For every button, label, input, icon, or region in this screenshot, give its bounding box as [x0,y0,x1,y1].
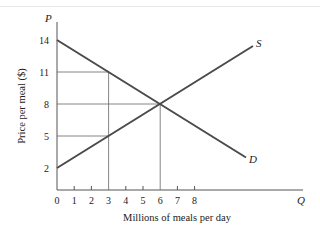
demand-label: D [248,153,257,165]
y-tick-5: 5 [44,131,49,142]
x-tick-labels: 0 1 2 3 4 5 6 7 8 [55,195,198,206]
y-tick-8: 8 [44,99,49,110]
supply-label: S [256,37,262,49]
y-axis-variable: P [44,12,52,24]
y-axis-title: Price per meal ($) [16,68,28,144]
x-tick-1: 1 [72,195,77,206]
x-tick-4: 4 [123,195,128,206]
supply-curve [57,46,253,168]
x-ticks [74,186,194,190]
y-tick-14: 14 [39,35,49,46]
y-tick-2: 2 [44,163,49,174]
guide-lines [57,72,160,190]
supply-demand-chart: S D P Q 14 11 8 5 2 0 1 2 3 4 5 6 7 8 Mi… [0,0,320,237]
demand-curve [57,40,246,158]
x-axis-variable: Q [297,194,305,206]
y-tick-labels: 14 11 8 5 2 [39,35,49,174]
y-tick-11: 11 [39,67,49,78]
x-tick-3: 3 [106,195,111,206]
x-tick-0: 0 [55,195,60,206]
x-tick-8: 8 [192,195,197,206]
x-axis-title: Millions of meals per day [123,212,232,223]
x-tick-7: 7 [175,195,180,206]
x-tick-6: 6 [158,195,163,206]
x-tick-2: 2 [89,195,94,206]
x-tick-5: 5 [141,195,146,206]
